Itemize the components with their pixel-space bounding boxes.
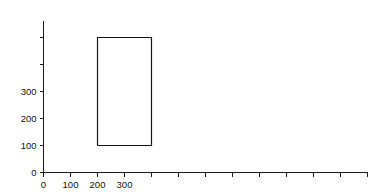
x-tick-label: 100: [63, 179, 79, 190]
y-tick-label: 300: [21, 86, 37, 97]
x-tick-label: 300: [117, 179, 133, 190]
y-tick-label: 0: [31, 167, 36, 178]
y-tick-label: 200: [21, 113, 37, 124]
chart-figure: 0100200300 0100200300: [0, 0, 380, 194]
x-tick-label: 0: [41, 179, 46, 190]
plot-canvas: 0100200300 0100200300: [0, 0, 380, 194]
axes-group: [44, 21, 368, 172]
data-series-group: [98, 38, 152, 146]
y-axis-ticks: 0100200300: [21, 38, 44, 179]
data-series-rectangle-outline: [98, 38, 152, 146]
x-tick-label: 200: [90, 179, 106, 190]
x-axis-ticks: 0100200300: [41, 173, 368, 190]
y-tick-label: 100: [21, 140, 37, 151]
